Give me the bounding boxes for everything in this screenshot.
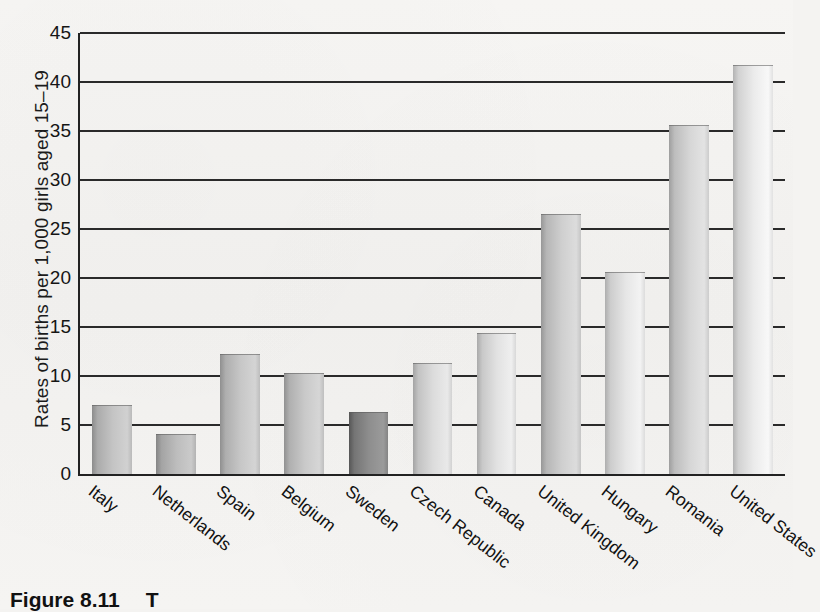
x-tick-label: Italy xyxy=(84,481,122,517)
bar-slot xyxy=(284,33,324,474)
bar xyxy=(284,373,324,474)
y-tick-label: 40 xyxy=(50,71,71,93)
y-tick-label: 35 xyxy=(50,120,71,142)
bar xyxy=(92,405,132,474)
y-tick-label: 10 xyxy=(50,365,71,387)
bar xyxy=(220,354,260,474)
bar-slot xyxy=(477,33,517,474)
x-tick-label: Romania xyxy=(661,481,729,541)
bar-slot xyxy=(669,33,709,474)
bar xyxy=(413,363,453,474)
bar-slot xyxy=(156,33,196,474)
bar-slot xyxy=(413,33,453,474)
x-tick-label: Sweden xyxy=(341,481,404,536)
bar xyxy=(349,412,389,474)
y-tick-label: 0 xyxy=(60,463,71,485)
bar-slot xyxy=(541,33,581,474)
y-tick-label: 30 xyxy=(50,169,71,191)
y-tick-label: 45 xyxy=(50,22,71,44)
bar xyxy=(477,333,517,474)
x-tick-label: Spain xyxy=(212,481,260,525)
y-tick-label: 5 xyxy=(60,414,71,436)
y-tick-label: 20 xyxy=(50,267,71,289)
plot-area: 051015202530354045 xyxy=(78,33,785,476)
bar xyxy=(156,434,196,474)
y-tick-label: 25 xyxy=(50,218,71,240)
bar xyxy=(605,272,645,474)
figure-number: Figure 8.11 xyxy=(10,588,120,611)
bar-slot xyxy=(605,33,645,474)
y-tick-label: 15 xyxy=(50,316,71,338)
bar-slot xyxy=(92,33,132,474)
bar xyxy=(541,214,581,474)
bar-slot xyxy=(220,33,260,474)
x-axis-tick-labels: ItalyNetherlandsSpainBelgiumSwedenCzech … xyxy=(78,477,783,597)
bar-slot xyxy=(733,33,773,474)
figure-caption: Figure 8.11T xyxy=(10,588,159,612)
bar-series xyxy=(80,33,785,474)
bar xyxy=(669,125,709,474)
x-tick-label: United States xyxy=(725,481,820,562)
x-tick-label: Belgium xyxy=(277,481,340,536)
bar-slot xyxy=(349,33,389,474)
figure-caption-text: T xyxy=(146,588,159,611)
bar xyxy=(733,65,773,474)
